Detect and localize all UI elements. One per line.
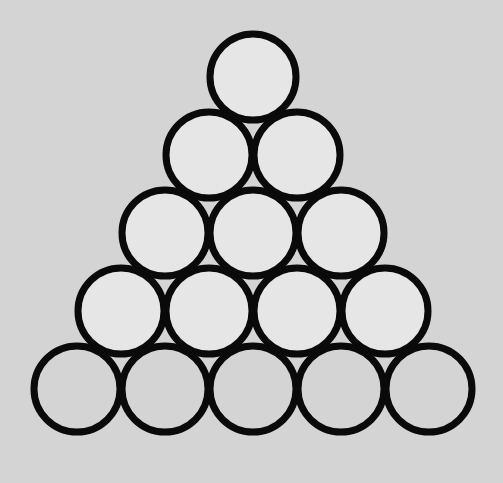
circle-triangle-diagram xyxy=(0,0,503,483)
circle-row-2-item-2 xyxy=(254,112,340,198)
circle-row-3-item-1 xyxy=(122,190,208,276)
circle-row-1-item-1 xyxy=(210,34,296,120)
circle-row-4-item-3 xyxy=(254,268,340,354)
circle-row-5-item-3 xyxy=(210,346,296,432)
circle-row-4-item-2 xyxy=(166,268,252,354)
circle-row-5-item-1 xyxy=(34,346,120,432)
circle-row-4-item-4 xyxy=(342,268,428,354)
circle-row-5-item-5 xyxy=(386,346,472,432)
circle-row-3-item-2 xyxy=(210,190,296,276)
circle-row-5-item-4 xyxy=(298,346,384,432)
circle-row-5-item-2 xyxy=(122,346,208,432)
circle-row-2-item-1 xyxy=(166,112,252,198)
circle-row-3-item-3 xyxy=(298,190,384,276)
circle-row-4-item-1 xyxy=(78,268,164,354)
